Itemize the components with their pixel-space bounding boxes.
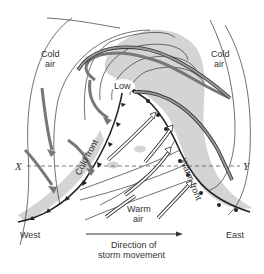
- precipitation-region: [105, 30, 252, 209]
- low-label: Low: [114, 81, 131, 91]
- warm-air-arrow-inner: [108, 118, 152, 160]
- cold-air-arrowheads: [47, 117, 112, 194]
- east-label: East: [226, 230, 245, 240]
- cold-front-triangle: [116, 122, 121, 127]
- cold-front-line: [18, 88, 123, 222]
- warm-front-bump: [156, 113, 160, 117]
- warm-front-bump: [234, 208, 238, 212]
- cold-air-arrow: [90, 80, 108, 118]
- cyclone-diagram: X Y: [0, 0, 264, 274]
- warm-air-arrow-inner: [158, 186, 188, 218]
- rain-patch: [107, 162, 119, 169]
- cold-air-left-label: air: [45, 59, 55, 69]
- isobar: [47, 18, 120, 28]
- cold-front-triangle: [121, 103, 126, 107]
- storm-direction-arrowhead: [176, 232, 183, 237]
- direction-label: storm movement: [98, 250, 166, 260]
- cold-air-right-label: air: [214, 59, 224, 69]
- cold-front-triangle: [108, 142, 113, 147]
- warm-front-bump: [146, 99, 150, 103]
- west-label: West: [20, 230, 41, 240]
- rain-patch: [134, 146, 146, 153]
- arrowhead: [165, 147, 171, 154]
- cold-air-arrow: [25, 150, 52, 185]
- cold-air-arrow: [42, 88, 52, 150]
- isobar: [210, 20, 235, 190]
- cold-air-right-label: Cold: [211, 49, 230, 59]
- arrowhead: [86, 168, 95, 176]
- warm-air-label: air: [133, 214, 143, 224]
- x-marker: X: [14, 160, 23, 172]
- arrowhead: [47, 149, 56, 157]
- cold-air-left-label: Cold: [41, 49, 60, 59]
- warm-front-bump: [217, 203, 221, 207]
- cold-front-triangle: [97, 162, 102, 168]
- direction-label: Direction of: [111, 240, 157, 250]
- cold-front-label: Cold front: [73, 137, 100, 177]
- warm-air-label: Warm: [127, 204, 151, 214]
- y-marker: Y: [243, 160, 251, 172]
- warm-air-arrows: [106, 118, 188, 218]
